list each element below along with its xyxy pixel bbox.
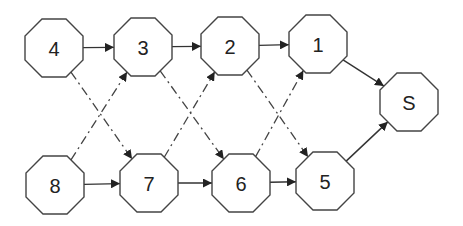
node-S: S (380, 73, 438, 131)
edge-6-to-1 (256, 70, 304, 156)
edge-2-to-5 (247, 70, 308, 157)
node-label: 4 (48, 38, 59, 60)
flow-diagram: 4321S8765 (0, 0, 463, 226)
edge-1-to-S (343, 60, 384, 86)
edge-7-to-2 (164, 72, 215, 157)
edge-6-to-5 (270, 182, 296, 183)
edge-4-to-7 (71, 72, 132, 159)
edge-2-to-1 (259, 45, 289, 46)
node-label: 8 (49, 175, 60, 197)
node-label: 2 (224, 36, 235, 58)
node-3: 3 (114, 18, 172, 76)
node-7: 7 (120, 154, 178, 212)
node-5: 5 (296, 152, 354, 210)
node-6: 6 (212, 154, 270, 212)
node-1: 1 (289, 15, 347, 73)
node-label: 1 (312, 34, 323, 56)
node-4: 4 (25, 19, 83, 77)
edge-8-to-3 (71, 72, 127, 160)
edge-3-to-6 (160, 71, 224, 159)
node-label: 6 (235, 173, 246, 195)
edge-5-to-S (346, 122, 388, 161)
node-label: 7 (143, 173, 154, 195)
node-label: 5 (319, 171, 330, 193)
node-label: 3 (137, 37, 148, 59)
edge-8-to-7 (84, 184, 120, 185)
node-2: 2 (201, 17, 259, 75)
node-label: S (402, 92, 415, 114)
node-8: 8 (26, 156, 84, 214)
